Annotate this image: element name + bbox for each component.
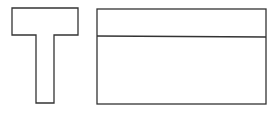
rectangle-divider bbox=[97, 36, 266, 37]
t-shape bbox=[12, 8, 78, 103]
rectangle bbox=[97, 9, 266, 104]
diagram-canvas bbox=[0, 0, 276, 113]
